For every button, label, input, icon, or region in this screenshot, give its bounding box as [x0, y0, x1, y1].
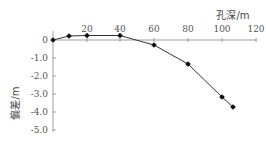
y-axis-title: 偏差/m [9, 86, 21, 119]
x-tick-label: 60 [148, 24, 160, 34]
y-tick-label: -5.0 [31, 125, 49, 135]
y-tick-label: -1.0 [31, 53, 49, 63]
y-tick-label: -2.0 [31, 71, 49, 81]
x-tick-label: 80 [182, 24, 194, 34]
data-markers [50, 33, 236, 110]
x-tick-label: 40 [114, 24, 126, 34]
data-line [53, 36, 233, 108]
x-axis-title: 孔深/m [216, 10, 249, 21]
y-tick-label: -4.0 [31, 107, 49, 117]
y-ticks [53, 58, 56, 130]
x-tick-label: 100 [213, 24, 230, 34]
y-tick-label: 0 [42, 35, 48, 45]
line-chart: 20 40 60 80 100 120 0 -1.0 -2.0 -3.0 -4.… [0, 0, 266, 146]
y-tick-label: -3.0 [31, 89, 49, 99]
x-tick-label: 20 [81, 24, 93, 34]
x-tick-label: 120 [247, 24, 264, 34]
